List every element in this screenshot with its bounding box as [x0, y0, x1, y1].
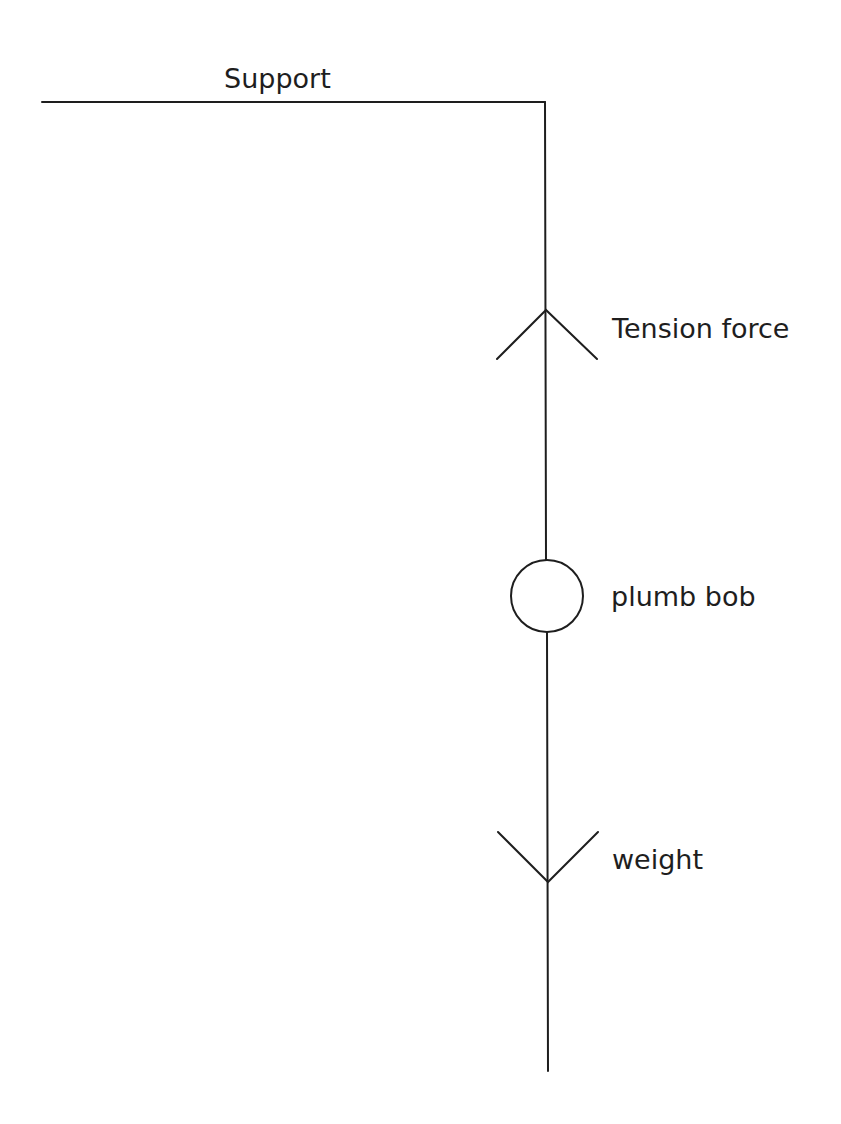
support-label: Support [224, 63, 331, 94]
string-upper [545, 102, 546, 560]
tension-label: Tension force [611, 313, 789, 344]
string-lower [547, 632, 548, 1071]
plumb-bob-label: plumb bob [611, 581, 756, 612]
plumb-bob-diagram: Support Tension force plumb bob weight [0, 0, 841, 1124]
plumb-bob-circle [511, 560, 583, 632]
tension-arrow-icon [497, 310, 597, 359]
weight-label: weight [612, 844, 703, 875]
